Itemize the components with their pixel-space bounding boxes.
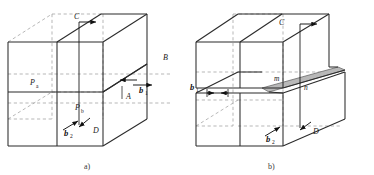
b-label-C: C bbox=[279, 18, 285, 27]
b-edge-upper-right-bottom-diag bbox=[283, 70, 345, 88]
b-edge-upper-top-right-diagonal bbox=[283, 14, 329, 42]
panel-b-hidden-edges bbox=[196, 14, 345, 126]
label-C: C bbox=[74, 12, 80, 21]
label-Pb: P bbox=[74, 103, 80, 112]
caption-panel-b: b) bbox=[268, 162, 275, 171]
panel-a-hidden-edges bbox=[8, 14, 170, 119]
panel-a-arrows bbox=[63, 22, 152, 130]
caption-panel-a: a) bbox=[84, 162, 91, 171]
edge-top-right-diagonal bbox=[103, 14, 147, 42]
figure-root: C B A D P a P b b 1 b 2 a) bbox=[0, 0, 374, 175]
b-edge-lower-top-left-diag bbox=[196, 72, 238, 93]
panel-b-visible-edges bbox=[196, 14, 345, 146]
label-D: D bbox=[92, 126, 99, 135]
b-label-n: n bbox=[304, 83, 308, 92]
label-b2-subscript: 2 bbox=[70, 133, 73, 139]
b-label-b2-subscript: 2 bbox=[272, 139, 275, 145]
b-label-b2: b bbox=[266, 134, 270, 144]
b-label-m: m bbox=[274, 74, 280, 83]
hidden-edge-floor-diagonal-left bbox=[8, 92, 52, 119]
label-b2: b bbox=[64, 128, 68, 138]
b-label-b1-subscript: 1 bbox=[196, 87, 199, 93]
b-label-b1: b bbox=[190, 82, 194, 92]
label-Pa-subscript: a bbox=[36, 83, 39, 89]
label-A: A bbox=[125, 92, 131, 101]
b-edge-upper-top-inner-diagonal bbox=[240, 14, 282, 42]
panel-a-diagram: C B A D P a P b b 1 b 2 a) bbox=[0, 0, 374, 175]
label-Pa: P bbox=[29, 78, 35, 87]
label-b1: b bbox=[139, 85, 143, 95]
hidden-edge-back-top-left bbox=[8, 14, 52, 42]
b-edge-upper-top-left-diagonal bbox=[196, 14, 238, 42]
b-hidden-floor-diagonal bbox=[196, 100, 238, 126]
label-Pb-subscript: b bbox=[81, 108, 84, 114]
label-B: B bbox=[163, 53, 168, 62]
label-b1-subscript: 1 bbox=[145, 90, 148, 96]
arrow-at-D bbox=[79, 118, 90, 127]
b-label-D: D bbox=[312, 127, 319, 136]
edge-right-bottom-diagonal bbox=[103, 119, 147, 146]
